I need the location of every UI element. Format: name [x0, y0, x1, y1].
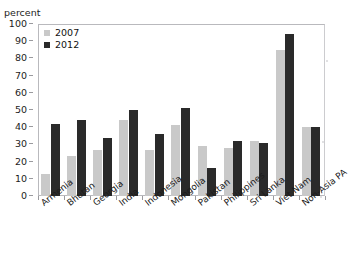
- y-axis-tick-label: 40: [15, 121, 27, 132]
- y-axis-tick-mark: [29, 23, 33, 24]
- legend-item: 2012: [44, 39, 104, 50]
- scan-artifact: [320, 196, 322, 198]
- chart-legend: 20072012: [44, 27, 104, 51]
- y-axis-tick-mark: [29, 143, 33, 144]
- y-axis-tick-mark: [29, 109, 33, 110]
- y-axis-tick-label: 50: [15, 104, 27, 115]
- chart-title: [0, 0, 330, 4]
- legend-swatch-icon: [44, 30, 50, 36]
- legend-label: 2007: [55, 27, 79, 38]
- y-axis-tick-label: 30: [15, 138, 27, 149]
- legend-swatch-icon: [44, 42, 50, 48]
- bar-2012: [181, 108, 190, 196]
- y-axis-tick-label: 10: [15, 173, 27, 184]
- bar-group: [299, 24, 325, 196]
- y-axis-tick-mark: [29, 75, 33, 76]
- y-axis-tick-mark: [29, 92, 33, 93]
- bar-group: [142, 24, 168, 196]
- y-axis-tick-label: 90: [15, 35, 27, 46]
- legend-item: 2007: [44, 27, 104, 38]
- y-axis-tick-mark: [29, 40, 33, 41]
- y-axis-tick-label: 100: [9, 18, 27, 29]
- bar-group: [116, 24, 142, 196]
- y-axis: 0102030405060708090100: [0, 24, 33, 196]
- y-axis-tick-label: 70: [15, 70, 27, 81]
- y-axis-tick-mark: [29, 57, 33, 58]
- y-axis-tick-label: 80: [15, 52, 27, 63]
- y-axis-tick-label: 60: [15, 87, 27, 98]
- y-axis-unit-label: percent: [4, 7, 40, 18]
- y-axis-tick-label: 20: [15, 156, 27, 167]
- bar-group: [195, 24, 221, 196]
- bar-group: [168, 24, 194, 196]
- bar-group: [221, 24, 247, 196]
- bar-2007: [145, 150, 154, 196]
- scan-artifact: [326, 60, 328, 62]
- y-axis-tick-mark: [29, 178, 33, 179]
- bar-group: [273, 24, 299, 196]
- y-axis-tick-mark: [29, 161, 33, 162]
- x-axis-labels: ArmeniaBhutanGeorgiaIndiaIndonesiaMongol…: [0, 196, 330, 253]
- bar-2012: [129, 110, 138, 196]
- scan-artifact: [322, 141, 324, 143]
- legend-label: 2012: [55, 39, 79, 50]
- y-axis-tick-mark: [29, 126, 33, 127]
- bar-2012: [285, 34, 294, 196]
